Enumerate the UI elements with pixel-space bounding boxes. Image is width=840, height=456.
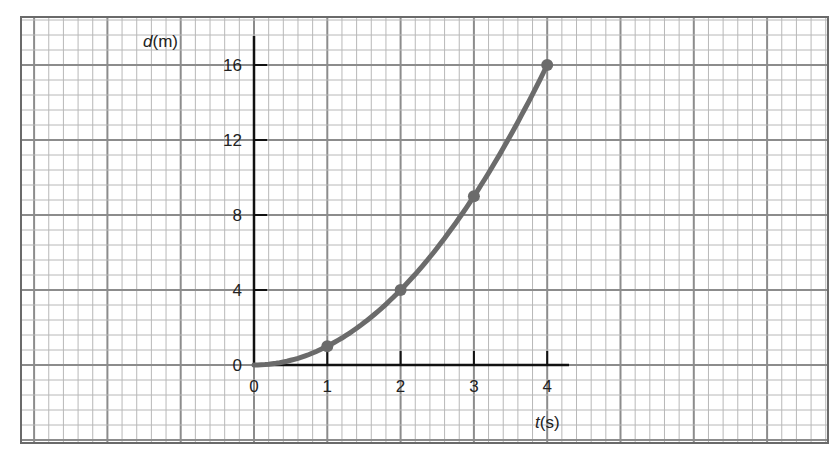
x-tick-label: 3	[469, 377, 478, 396]
chart-canvas: 012340481216 d(m) t(s)	[0, 0, 840, 456]
y-tick-label: 16	[223, 56, 242, 75]
y-tick-label: 0	[233, 356, 242, 375]
data-curve	[254, 59, 553, 365]
x-tick-label: 0	[249, 377, 258, 396]
x-tick-label: 2	[396, 377, 405, 396]
data-point-marker	[395, 284, 407, 296]
data-point-marker	[321, 340, 333, 352]
x-tick-label: 4	[542, 377, 551, 396]
y-tick-label: 8	[233, 206, 242, 225]
y-tick-label: 4	[233, 281, 242, 300]
x-axis-title: t(s)	[535, 413, 560, 432]
data-point-marker	[468, 190, 480, 202]
axis-labels: d(m) t(s)	[143, 32, 560, 432]
y-tick-label: 12	[223, 131, 242, 150]
x-tick-label: 1	[323, 377, 332, 396]
y-axis-title: d(m)	[143, 32, 178, 51]
graph-paper-grid	[21, 17, 828, 443]
data-point-marker	[541, 59, 553, 71]
